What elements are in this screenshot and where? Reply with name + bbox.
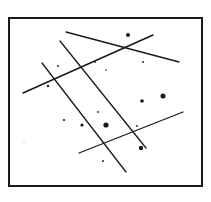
lower-ascending-line — [79, 112, 183, 153]
dot — [139, 146, 143, 150]
dot — [126, 33, 130, 37]
diagram-frame — [9, 18, 202, 186]
dot — [97, 111, 99, 113]
dot — [57, 65, 59, 67]
line-and-dot-diagram — [0, 0, 211, 202]
dot — [103, 122, 108, 127]
dot — [23, 141, 24, 142]
dot — [161, 94, 166, 99]
dot — [63, 119, 65, 121]
dot — [140, 99, 144, 103]
dot — [47, 85, 49, 87]
dot — [105, 69, 107, 71]
dot — [80, 123, 83, 126]
lines-group — [23, 32, 183, 172]
dot — [94, 61, 96, 63]
dot — [102, 160, 104, 162]
dot — [142, 61, 144, 63]
left-diagonal-line — [42, 63, 126, 172]
dot — [136, 125, 138, 127]
top-descending-line — [66, 32, 179, 62]
